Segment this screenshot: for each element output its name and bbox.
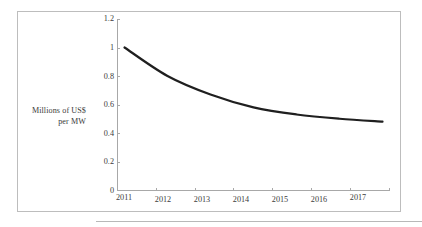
figure-container: Millions of US$ per MW 1.2 1 0.8 0.6 0.4…	[0, 0, 422, 227]
bottom-rule	[96, 221, 422, 222]
line-series-cost-per-mw	[125, 48, 383, 122]
data-series-layer	[0, 0, 422, 227]
